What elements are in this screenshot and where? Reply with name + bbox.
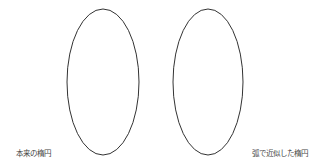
arc-approximated-ellipse	[173, 9, 243, 155]
original-ellipse	[67, 9, 139, 155]
original-ellipse-label: 本来の楕円	[16, 147, 51, 158]
ellipse-diagram	[0, 0, 316, 168]
arc-approximated-ellipse-label: 弧で近似した楕円	[252, 147, 308, 158]
figure-canvas: 本来の楕円 弧で近似した楕円	[0, 0, 316, 168]
